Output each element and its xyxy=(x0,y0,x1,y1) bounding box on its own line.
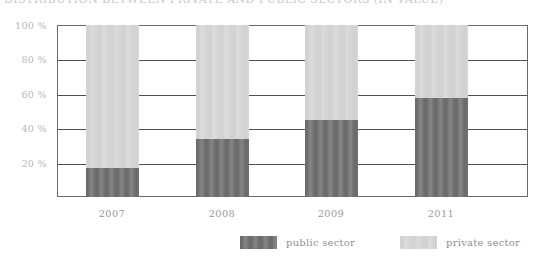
chart-legend: public sector private sector xyxy=(0,236,541,260)
y-tick-label-80: 80 % xyxy=(21,54,47,65)
x-axis-labels: 2007 2008 2009 2011 xyxy=(57,200,528,224)
bar-segment-public-2011[interactable] xyxy=(415,98,468,197)
legend-item-private-sector[interactable]: private sector xyxy=(400,236,520,249)
x-tick-label-2009: 2009 xyxy=(281,208,381,219)
bar-segment-public-2009[interactable] xyxy=(305,120,358,197)
bar-group-2009[interactable] xyxy=(305,25,358,197)
x-tick-label-2011: 2011 xyxy=(391,208,491,219)
chart-title: DISTRIBUTION BETWEEN PRIVATE AND PUBLIC … xyxy=(4,0,537,6)
chart-container: DISTRIBUTION BETWEEN PRIVATE AND PUBLIC … xyxy=(0,0,541,264)
y-tick-label-20: 20 % xyxy=(21,157,47,168)
x-tick-label-2007: 2007 xyxy=(62,208,162,219)
legend-item-public-sector[interactable]: public sector xyxy=(240,236,355,249)
bar-group-2008[interactable] xyxy=(196,25,249,197)
y-tick-label-60: 60 % xyxy=(21,88,47,99)
legend-label-private-sector: private sector xyxy=(446,237,520,248)
bars-layer xyxy=(57,25,528,197)
y-tick-label-40: 40 % xyxy=(21,123,47,134)
legend-swatch-private-sector xyxy=(400,236,437,249)
y-axis-labels: 100 % 80 % 60 % 40 % 20 % xyxy=(0,0,57,210)
x-tick-label-2008: 2008 xyxy=(172,208,272,219)
legend-label-public-sector: public sector xyxy=(286,237,355,248)
bar-segment-public-2008[interactable] xyxy=(196,139,249,197)
bar-group-2011[interactable] xyxy=(415,25,468,197)
bar-segment-public-2007[interactable] xyxy=(86,168,139,197)
legend-swatch-public-sector xyxy=(240,236,277,249)
y-tick-label-100: 100 % xyxy=(15,20,47,31)
bar-group-2007[interactable] xyxy=(86,25,139,197)
